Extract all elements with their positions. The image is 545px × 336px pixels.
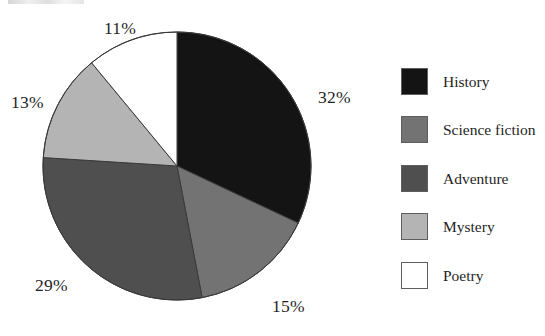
slice-label-science-fiction: 15% [272,298,305,316]
legend-swatch-poetry [401,262,428,289]
slice-label-poetry: 11% [104,20,136,38]
slice-label-mystery: 13% [11,94,44,112]
legend-item-poetry[interactable]: Poetry [401,251,541,300]
slice-label-adventure: 29% [35,277,68,295]
legend-item-mystery[interactable]: Mystery [401,203,541,252]
legend-label-science-fiction: Science fiction [443,121,536,138]
pie-chart: 11% 32% 15% 29% 13% [0,0,390,336]
chart-legend: History Science fiction Adventure Myster… [401,57,541,300]
legend-swatch-adventure [401,165,428,192]
pie-slice-group [43,32,311,300]
legend-swatch-history [401,68,428,95]
legend-label-mystery: Mystery [443,218,495,235]
legend-swatch-science-fiction [401,116,428,143]
legend-item-history[interactable]: History [401,57,541,106]
slice-label-history: 32% [318,89,351,107]
legend-item-science-fiction[interactable]: Science fiction [401,106,541,155]
legend-swatch-mystery [401,213,428,240]
legend-item-adventure[interactable]: Adventure [401,154,541,203]
legend-label-history: History [443,73,490,90]
legend-label-poetry: Poetry [443,267,483,284]
legend-label-adventure: Adventure [443,170,508,187]
